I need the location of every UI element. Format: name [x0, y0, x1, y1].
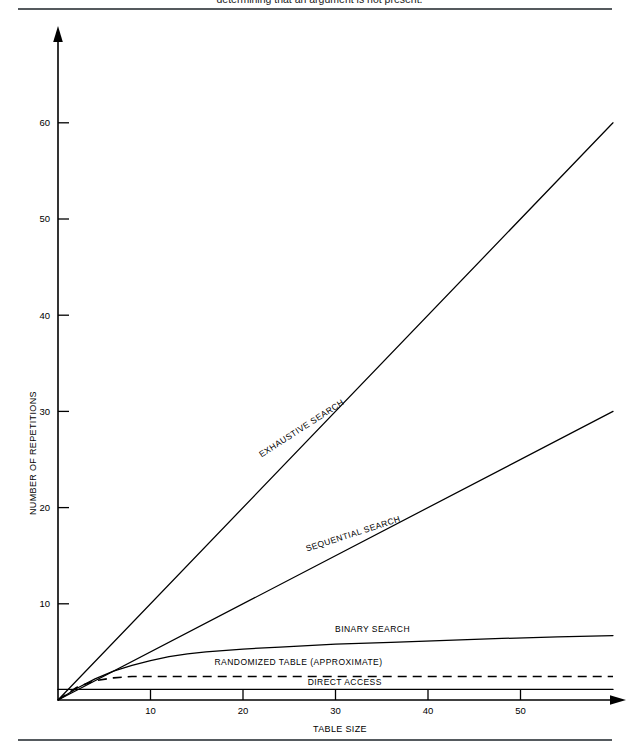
line-chart-plot: 102030405060 1020304050 NUMBER OF REPETI… — [0, 0, 639, 751]
y-tick-label: 20 — [39, 502, 50, 513]
x-axis-ticks: 1020304050 — [145, 689, 526, 716]
x-tick-label: 50 — [515, 705, 526, 716]
y-tick-label: 50 — [39, 213, 50, 224]
x-tick-label: 10 — [145, 705, 156, 716]
x-tick-label: 20 — [238, 705, 249, 716]
series-label-direct-access: DIRECT ACCESS — [308, 677, 382, 687]
series-label-exhaustive-search: EXHAUSTIVE SEARCH — [257, 397, 346, 459]
series-labels-group: EXHAUSTIVE SEARCHSEQUENTIAL SEARCHBINARY… — [215, 397, 410, 687]
x-axis-title: TABLE SIZE — [313, 724, 367, 734]
series-label-sequential-search: SEQUENTIAL SEARCH — [304, 514, 401, 554]
series-label-binary-search: BINARY SEARCH — [335, 624, 410, 634]
y-axis-title: NUMBER OF REPETITIONS — [28, 391, 38, 515]
axes-group — [53, 26, 626, 705]
y-axis-ticks: 102030405060 — [39, 117, 69, 609]
chart-page: determining that an argument is not pres… — [0, 0, 639, 751]
x-tick-label: 30 — [330, 705, 341, 716]
y-axis-arrowhead — [53, 26, 63, 42]
y-tick-label: 40 — [39, 310, 50, 321]
y-tick-label: 30 — [39, 406, 50, 417]
x-tick-label: 40 — [423, 705, 434, 716]
y-tick-label: 10 — [39, 598, 50, 609]
x-axis-arrowhead — [610, 695, 626, 705]
y-tick-label: 60 — [39, 117, 50, 128]
series-label-randomized-table-approximate: RANDOMIZED TABLE (APPROXIMATE) — [215, 657, 383, 667]
